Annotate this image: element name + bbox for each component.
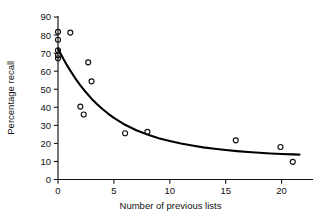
chart-plot-area: 0102030405060708090 05101520 Number of p…	[0, 0, 332, 223]
y-axis-tick-group: 0102030405060708090	[40, 11, 58, 184]
data-point-marker	[123, 131, 128, 136]
y-tick-label: 20	[40, 138, 51, 149]
data-point-group	[56, 29, 296, 164]
x-axis-title: Number of previous lists	[120, 200, 222, 211]
x-axis-tick-group: 05101520	[55, 180, 287, 196]
x-tick-label: 20	[276, 185, 287, 196]
y-tick-label: 30	[40, 120, 51, 131]
data-point-marker	[86, 60, 91, 65]
data-point-marker	[290, 159, 295, 164]
data-point-marker	[89, 79, 94, 84]
recall-vs-previous-lists-chart: 0102030405060708090 05101520 Number of p…	[0, 0, 332, 223]
y-tick-label: 40	[40, 102, 51, 113]
y-tick-label: 70	[40, 48, 51, 59]
x-tick-label: 15	[220, 185, 231, 196]
y-tick-label: 10	[40, 156, 51, 167]
y-axis-title: Percentage recall	[5, 61, 16, 135]
data-point-marker	[78, 104, 83, 109]
y-tick-label: 50	[40, 84, 51, 95]
data-point-marker	[278, 145, 283, 150]
x-tick-label: 0	[55, 185, 60, 196]
x-tick-label: 5	[111, 185, 116, 196]
y-tick-label: 0	[46, 174, 51, 185]
y-tick-label: 90	[40, 11, 51, 22]
y-tick-label: 80	[40, 30, 51, 41]
data-point-marker	[81, 112, 86, 117]
data-point-marker	[68, 30, 73, 35]
fit-curve-path	[58, 49, 299, 155]
data-point-marker	[233, 138, 238, 143]
y-tick-label: 60	[40, 66, 51, 77]
x-tick-label: 10	[165, 185, 176, 196]
